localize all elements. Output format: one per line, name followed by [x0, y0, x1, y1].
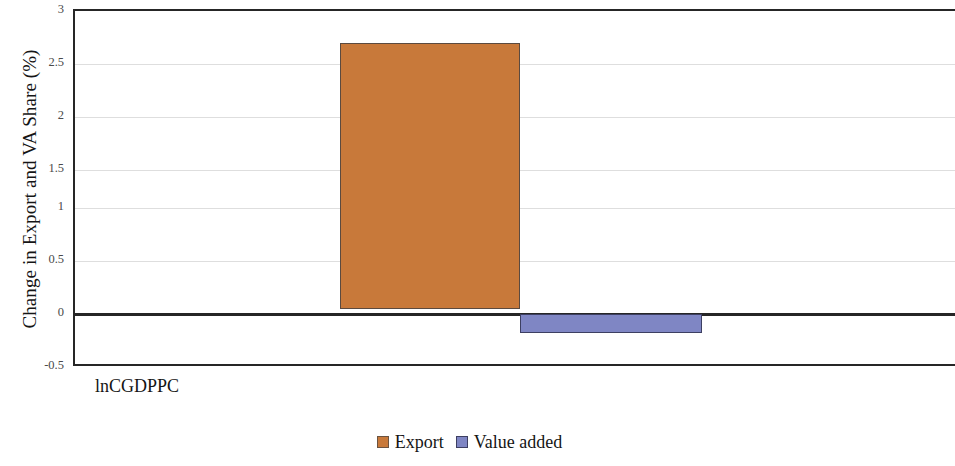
- value-added-color-swatch: [456, 436, 468, 448]
- y-axis-tick-labels: 3 2.5 2 1.5 1 0.5 0 -0.5: [0, 0, 68, 370]
- y-tick-label-0_5: 0.5: [48, 253, 64, 266]
- y-tick-label-1_5: 1.5: [48, 162, 64, 175]
- chart-legend: Export Value added: [0, 432, 955, 453]
- gridline-zero: [75, 313, 955, 316]
- legend-label-export: Export: [395, 432, 444, 453]
- y-tick-label-2: 2: [58, 109, 64, 122]
- bar-export-lnCGDPPC: [340, 43, 520, 309]
- bar-chart: Change in Export and VA Share (%) 3 2.5 …: [0, 0, 955, 466]
- export-color-swatch: [377, 436, 389, 448]
- y-tick-label-0: 0: [58, 306, 64, 319]
- legend-inner: Export Value added: [371, 432, 568, 453]
- x-axis-category-label-wrap: lnCGDPPC: [73, 376, 955, 397]
- legend-label-value-added: Value added: [474, 432, 562, 453]
- legend-item-export[interactable]: Export: [377, 432, 444, 453]
- bar-value-added-lnCGDPPC: [520, 314, 702, 333]
- y-tick-label-1: 1: [58, 200, 64, 213]
- y-tick-label-neg0_5: -0.5: [44, 359, 64, 372]
- y-tick-label-2_5: 2.5: [48, 56, 64, 69]
- legend-item-value-added[interactable]: Value added: [456, 432, 562, 453]
- y-tick-label-3: 3: [58, 3, 64, 16]
- x-axis-category-label: lnCGDPPC: [95, 376, 179, 397]
- plot-area: [73, 9, 955, 366]
